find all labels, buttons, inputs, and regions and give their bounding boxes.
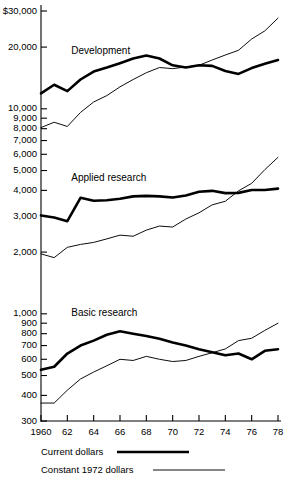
x-tick-label: 74 xyxy=(220,426,231,437)
panel-label-development: Development xyxy=(71,45,130,56)
y-tick-label: 500 xyxy=(21,369,37,380)
x-tick-label: 70 xyxy=(167,426,178,437)
x-tick-label: 64 xyxy=(88,426,99,437)
legend-label-current-dollars: Current dollars xyxy=(41,446,104,457)
x-tick-label: 68 xyxy=(141,426,152,437)
chart-container: $30,00020,00010,0009,0008,0007,0006,0005… xyxy=(0,0,285,479)
y-tick-label: 2,000 xyxy=(13,246,37,257)
y-tick-label: 7,000 xyxy=(13,134,37,145)
series-line-applied-research-current xyxy=(41,189,278,222)
y-tick-label: 20,000 xyxy=(8,41,37,52)
y-tick-label: 6,000 xyxy=(13,148,37,159)
legend-label-constant-1972-dollars: Constant 1972 dollars xyxy=(41,464,134,475)
panel-label-basic-research: Basic research xyxy=(71,307,137,318)
chart-legend: Current dollarsConstant 1972 dollars xyxy=(41,446,225,475)
y-tick-label: $30,000 xyxy=(3,5,37,16)
y-tick-label: 3,000 xyxy=(13,210,37,221)
series-lines xyxy=(41,18,278,403)
x-axis: 1960626466687072747678 xyxy=(30,415,283,437)
y-tick-label: 800 xyxy=(21,327,37,338)
y-tick-label: 600 xyxy=(21,353,37,364)
line-chart: $30,00020,00010,0009,0008,0007,0006,0005… xyxy=(0,0,285,479)
panel-labels: DevelopmentApplied researchBasic researc… xyxy=(71,45,146,318)
y-tick-label: 900 xyxy=(21,317,37,328)
y-tick-label: 300 xyxy=(21,415,37,426)
y-tick-label: 400 xyxy=(21,389,37,400)
x-tick-label: 72 xyxy=(194,426,205,437)
x-tick-label: 76 xyxy=(246,426,257,437)
x-tick-label: 66 xyxy=(115,426,126,437)
y-tick-label: 4,000 xyxy=(13,184,37,195)
y-tick-label: 8,000 xyxy=(13,122,37,133)
series-line-basic-research-constant xyxy=(41,323,278,403)
x-tick-label: 78 xyxy=(273,426,284,437)
y-tick-label: 700 xyxy=(21,339,37,350)
x-tick-label: 62 xyxy=(62,426,73,437)
series-line-development-current xyxy=(41,56,278,94)
y-tick-label: 5,000 xyxy=(13,164,37,175)
y-tick-label: 9,000 xyxy=(13,112,37,123)
series-line-basic-research-current xyxy=(41,331,278,370)
panel-label-applied-research: Applied research xyxy=(71,172,146,183)
x-tick-label: 1960 xyxy=(30,426,51,437)
